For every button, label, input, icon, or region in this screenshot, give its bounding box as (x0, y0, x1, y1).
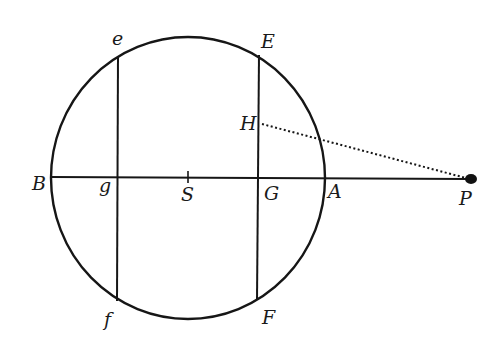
label-B: B (31, 172, 46, 194)
label-E: E (260, 30, 275, 52)
line-BP (51, 177, 468, 179)
label-f: f (102, 308, 114, 330)
chord-ef (117, 56, 118, 301)
label-g: g (99, 174, 111, 196)
point-P-dot (465, 174, 477, 184)
label-F: F (261, 306, 276, 328)
label-S: S (181, 183, 194, 205)
label-P: P (458, 187, 473, 209)
label-H: H (239, 112, 257, 134)
dotted-line-HP (262, 124, 466, 178)
chord-EF (257, 55, 259, 300)
label-e: e (112, 27, 123, 49)
label-G: G (264, 182, 279, 204)
geometry-diagram: e E H B g S G A P f F (0, 0, 503, 352)
label-A: A (326, 180, 342, 202)
